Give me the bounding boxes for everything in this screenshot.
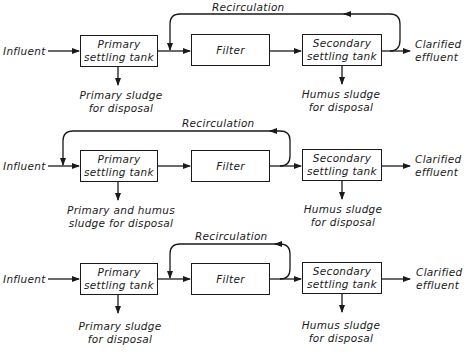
primary-settling-tank: Primary settling tank	[80, 35, 158, 67]
secondary-settling-tank: Secondary settling tank	[302, 149, 382, 181]
effluent-label-2: effluent	[415, 51, 458, 64]
primary-settling-tank: Primary settling tank	[80, 263, 158, 295]
filter: Filter	[191, 263, 270, 295]
recirculation-label: Recirculation	[182, 117, 255, 130]
effluent-label-2: effluent	[416, 279, 459, 292]
primary-out-1: Primary and humus	[67, 204, 175, 217]
influent-label: Influent	[3, 273, 46, 286]
secondary-settling-tank: Secondary settling tank	[302, 262, 382, 294]
trickling-filter-flow-diagrams: Influent Primary settling tank Filter Se…	[0, 0, 467, 354]
influent-label: Influent	[3, 160, 46, 173]
secondary-out-2: for disposal	[309, 101, 373, 114]
primary-out-1: Primary sludge	[79, 89, 162, 102]
recirculation-label: Recirculation	[195, 230, 268, 243]
secondary-out-1: Humus sludge	[302, 88, 381, 101]
effluent-label-1: Clarified	[415, 153, 461, 166]
filter: Filter	[191, 34, 270, 66]
secondary-out-2: for disposal	[311, 216, 375, 229]
effluent-label-1: Clarified	[416, 266, 462, 279]
secondary-line-1: Secondary	[313, 152, 371, 165]
filter-label: Filter	[216, 44, 245, 57]
recirculation-label: Recirculation	[212, 1, 285, 14]
secondary-out-1: Humus sludge	[304, 203, 383, 216]
primary-settling-tank: Primary settling tank	[80, 150, 158, 182]
primary-line-2: settling tank	[84, 166, 154, 179]
primary-out-2: sludge for disposal	[69, 217, 174, 230]
primary-out-2: for disposal	[88, 333, 152, 346]
primary-line-2: settling tank	[84, 51, 154, 64]
filter-label: Filter	[216, 160, 245, 173]
primary-out-2: for disposal	[89, 102, 153, 115]
secondary-line-2: settling tank	[307, 165, 377, 178]
secondary-line-1: Secondary	[313, 265, 371, 278]
secondary-settling-tank: Secondary settling tank	[302, 34, 382, 66]
primary-line-1: Primary	[98, 266, 141, 279]
secondary-line-1: Secondary	[313, 37, 371, 50]
filter-label: Filter	[216, 273, 245, 286]
primary-line-1: Primary	[98, 153, 141, 166]
secondary-out-2: for disposal	[309, 332, 373, 345]
secondary-out-1: Humus sludge	[302, 319, 381, 332]
influent-label: Influent	[3, 45, 46, 58]
primary-out-1: Primary sludge	[78, 320, 161, 333]
effluent-label-2: effluent	[415, 166, 458, 179]
secondary-line-2: settling tank	[307, 278, 377, 291]
filter: Filter	[191, 150, 270, 182]
secondary-line-2: settling tank	[307, 50, 377, 63]
effluent-label-1: Clarified	[415, 38, 461, 51]
primary-line-1: Primary	[98, 38, 141, 51]
primary-line-2: settling tank	[84, 279, 154, 292]
